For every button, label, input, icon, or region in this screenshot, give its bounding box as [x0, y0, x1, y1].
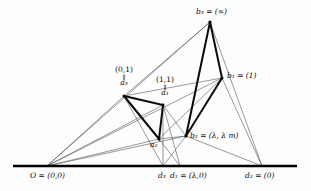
- label-d3: d₃: [158, 172, 166, 180]
- label-origin: O = (0,0): [30, 172, 65, 180]
- label-b3-text: b₃ = (∞): [196, 7, 227, 16]
- label-d2: d₂ = (0): [245, 172, 274, 180]
- label-b2-text: b₂ = (λ, λ m): [190, 131, 238, 140]
- line-b3-d2: [210, 22, 262, 166]
- label-a1: (1,1) ‖ a₁: [145, 76, 185, 96]
- label-b1: b₁ = (1): [227, 72, 256, 80]
- vertex-dot-b1: [221, 77, 224, 80]
- label-a2-text: a₂: [150, 140, 157, 149]
- label-b3: b₃ = (∞): [196, 8, 227, 16]
- label-d1-text: d₁ = (λ,0): [170, 171, 207, 180]
- line-O-b3: [47, 22, 210, 166]
- vertex-dot-a3: [123, 95, 126, 98]
- label-a3-name: a₃: [104, 79, 144, 87]
- line-a1-d1: [163, 105, 180, 166]
- label-d2-text: d₂ = (0): [245, 171, 274, 180]
- line-O-a2: [47, 139, 159, 166]
- label-a1-name: a₁: [145, 89, 185, 97]
- line-a1-b2: [163, 105, 186, 136]
- label-b1-text: b₁ = (1): [227, 71, 256, 80]
- vertex-dot-b2: [184, 134, 187, 137]
- line-a3-d3: [124, 96, 163, 166]
- label-d3-text: d₃: [158, 171, 166, 180]
- label-origin-text: O = (0,0): [30, 171, 65, 180]
- label-a2: a₂: [150, 141, 157, 149]
- vertex-dot-a2: [158, 138, 161, 141]
- line-O-b2: [47, 136, 186, 166]
- label-d1: d₁ = (λ,0): [170, 172, 207, 180]
- diagram-figure: b₃ = (∞) b₁ = (1) b₂ = (λ, λ m) (0,1) ‖ …: [0, 0, 311, 191]
- label-a3: (0,1) ‖ a₃: [104, 66, 144, 86]
- line-O-a1: [47, 105, 163, 166]
- label-b2: b₂ = (λ, λ m): [190, 132, 238, 140]
- vertex-dot-b3: [208, 20, 211, 23]
- line-a2-d1: [159, 139, 180, 166]
- vertex-dot-a1: [162, 104, 165, 107]
